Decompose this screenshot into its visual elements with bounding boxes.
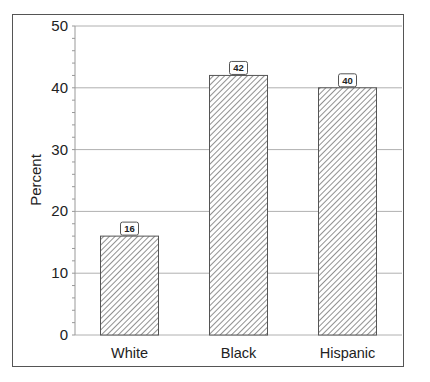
data-label: 16 (124, 223, 135, 234)
x-tick-label: Hispanic (320, 345, 376, 361)
data-label: 42 (233, 62, 244, 73)
x-tick-label: Black (221, 345, 257, 361)
y-tick-label: 20 (51, 202, 68, 219)
bar-hispanic (319, 88, 377, 335)
y-tick-label: 50 (51, 17, 68, 34)
y-axis: 01020304050 (51, 17, 75, 343)
bar-white (101, 236, 159, 335)
y-tick-label: 30 (51, 141, 68, 158)
x-tick-label: White (111, 345, 148, 361)
y-tick-label: 40 (51, 79, 68, 96)
y-tick-label: 10 (51, 264, 68, 281)
data-label: 40 (342, 75, 353, 86)
bars: 164240 (101, 61, 377, 335)
y-tick-label: 0 (60, 326, 68, 343)
bar-chart: 01020304050 164240 WhiteBlackHispanic Pe… (0, 0, 430, 382)
x-axis-labels: WhiteBlackHispanic (111, 345, 375, 361)
bar-black (210, 75, 268, 335)
y-axis-title: Percent (27, 153, 44, 206)
